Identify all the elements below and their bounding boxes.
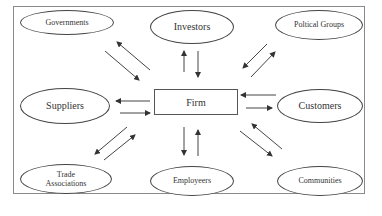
firm-label: Firm: [186, 97, 205, 108]
node-customers: Customers: [277, 89, 363, 123]
node-firm: Firm: [154, 89, 238, 115]
node-label: Customers: [299, 100, 342, 112]
node-political-groups: Poltical Groups: [275, 10, 363, 40]
node-label: Trade Associations: [46, 170, 87, 188]
node-communities: Communities: [277, 166, 363, 196]
arrow-communities-to-firm: [252, 124, 282, 149]
node-governments: Governments: [20, 10, 114, 35]
node-label: Investors: [174, 21, 211, 33]
node-investors: Investors: [150, 10, 234, 44]
arrow-firm-to-communities: [240, 131, 272, 156]
node-employeers: Employeers: [150, 166, 234, 196]
node-label: Suppliers: [46, 100, 84, 112]
node-suppliers: Suppliers: [20, 88, 110, 124]
node-label: Employeers: [173, 176, 211, 185]
arrow-firm-to-trade: [95, 127, 127, 154]
arrow-trade-to-firm: [104, 135, 135, 160]
arrow-governments-to-firm: [105, 51, 139, 80]
node-label: Poltical Groups: [294, 20, 344, 29]
node-trade-associations: Trade Associations: [20, 164, 112, 194]
node-label: Governments: [45, 18, 88, 27]
node-label: Communities: [298, 176, 341, 185]
